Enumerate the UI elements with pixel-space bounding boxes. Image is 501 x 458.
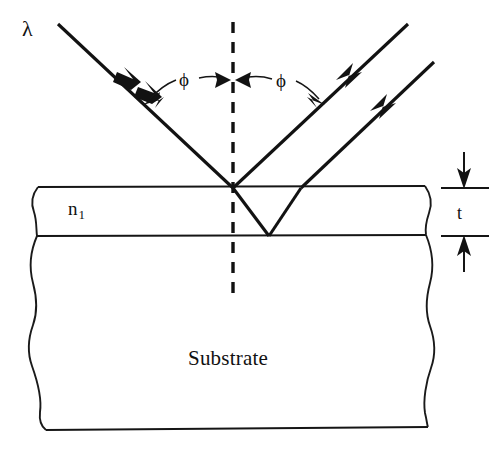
- phi-right-leader-to-ray: [296, 81, 319, 99]
- substrate-right-broken-edge: [424, 235, 434, 427]
- reflected-ray-arrowhead: [336, 63, 362, 88]
- phi-left-arrowhead-normal: [215, 72, 231, 88]
- incident-ray-arrowhead-1: [113, 67, 141, 90]
- angle-of-reflection-label: ϕ: [276, 71, 286, 90]
- incident-ray: [58, 24, 233, 188]
- film-refractive-index-label: n1: [68, 199, 85, 221]
- angle-of-incidence-label: ϕ: [179, 70, 189, 89]
- phi-right-arrowhead-normal: [235, 72, 251, 88]
- emergent-ray: [301, 62, 434, 188]
- internally-reflected-ray: [269, 188, 301, 236]
- film-right-broken-edge: [425, 186, 431, 235]
- substrate-label: Substrate: [188, 348, 268, 369]
- refracted-ray-in-film: [233, 188, 269, 236]
- substrate-left-broken-edge: [29, 236, 46, 430]
- wavelength-label: λ: [22, 18, 33, 40]
- film-thickness-label: t: [457, 204, 462, 222]
- emergent-ray-arrowhead: [370, 94, 396, 119]
- thin-film-interference-diagram: λ ϕ ϕ n1 t Substrate: [0, 0, 501, 458]
- film-left-broken-edge: [32, 187, 38, 236]
- film-substrate-interface: [37, 235, 426, 236]
- film-refractive-index-subscript: 1: [78, 207, 86, 222]
- thickness-dimension-marker: [441, 152, 489, 272]
- substrate-bottom-edge: [46, 427, 428, 430]
- ray-diagram-canvas: [0, 0, 501, 458]
- film-refractive-index-symbol: n: [68, 198, 78, 219]
